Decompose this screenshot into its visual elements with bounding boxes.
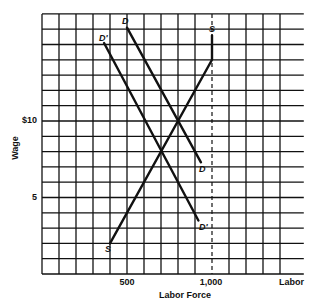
x-axis-end-label: Labor bbox=[279, 277, 304, 287]
demand-curve bbox=[127, 28, 201, 163]
labor-market-chart: S S D D D' D' $10 5 500 1,000 Labor Labo… bbox=[0, 0, 317, 305]
shifted-demand-bottom-label: D' bbox=[199, 222, 208, 232]
y-tick-5: 5 bbox=[32, 192, 37, 202]
x-tick-1000: 1,000 bbox=[200, 277, 223, 287]
shifted-demand-top-label: D' bbox=[99, 33, 108, 43]
supply-bottom-label: S bbox=[105, 244, 111, 254]
x-tick-500: 500 bbox=[119, 277, 134, 287]
supply-top-label: S bbox=[209, 24, 215, 34]
chart-grid bbox=[42, 14, 304, 274]
y-tick-10: $10 bbox=[22, 115, 37, 125]
demand-top-label: D bbox=[122, 16, 129, 26]
x-axis-title: Labor Force bbox=[159, 290, 211, 300]
demand-bottom-label: D bbox=[199, 164, 206, 174]
y-axis-title: Wage bbox=[10, 136, 20, 160]
